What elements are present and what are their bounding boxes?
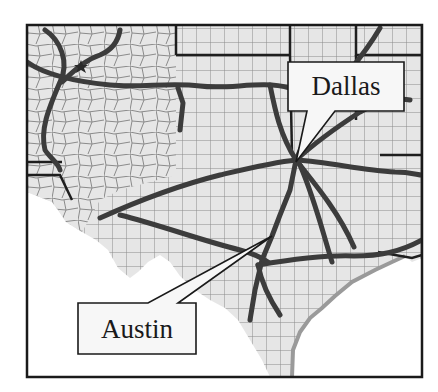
dallas-label: Dallas — [288, 73, 404, 100]
map-canvas — [0, 0, 438, 392]
austin-label: Austin — [78, 316, 196, 343]
